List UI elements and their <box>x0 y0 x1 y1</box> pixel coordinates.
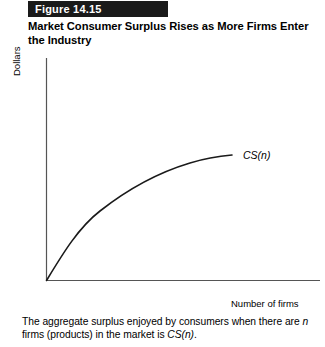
caption-italic-n: n <box>302 316 308 327</box>
plot-area: Dollars CS(n) <box>0 0 325 310</box>
caption-text-1: The aggregate surplus enjoyed by consume… <box>22 316 302 327</box>
figure-container: Figure 14.15 Market Consumer Surplus Ris… <box>0 0 325 347</box>
curve-label-csn: CS(n) <box>243 149 270 161</box>
chart-svg <box>0 0 325 310</box>
cs-curve <box>47 155 233 281</box>
caption-italic-csn: CS(n) <box>167 329 194 340</box>
x-axis-label: Number of firms <box>231 298 299 310</box>
caption-text-3: . <box>194 329 197 340</box>
y-axis-label: Dollars <box>10 20 24 76</box>
caption-text-2: firms (products) in the market is <box>22 329 167 340</box>
figure-caption: The aggregate surplus enjoyed by consume… <box>22 316 314 341</box>
